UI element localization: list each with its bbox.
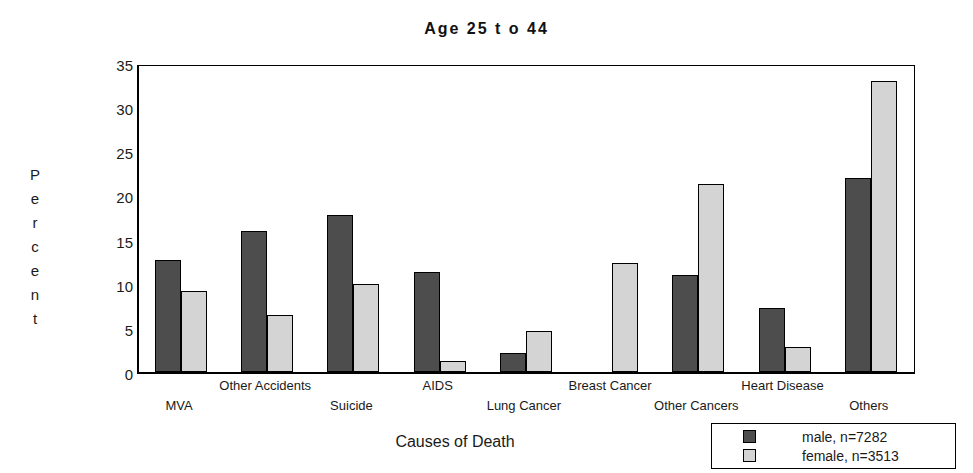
bar-group	[829, 66, 915, 372]
bar-male	[672, 275, 698, 372]
bar-male	[241, 231, 267, 372]
bar-male	[500, 353, 526, 372]
x-label-heart-disease: Heart Disease	[741, 378, 823, 393]
y-tick-label-25: 25	[99, 145, 133, 162]
x-label-other-cancers: Other Cancers	[654, 398, 739, 413]
y-tick-label-5: 5	[99, 321, 133, 338]
x-axis-category-labels: MVAOther AccidentsSuicideAIDSLung Cancer…	[137, 374, 915, 420]
bar-male	[327, 215, 353, 372]
legend-swatch-male-icon	[743, 430, 756, 443]
x-axis-title: Causes of Death	[330, 433, 580, 451]
y-axis-ticks: 05101520253035	[93, 65, 133, 374]
legend-swatch-female-icon	[743, 449, 756, 462]
legend-label-male: male, n=7282	[802, 429, 887, 445]
bar-group	[743, 66, 829, 372]
chart-title: Age 25 t o 44	[0, 20, 973, 38]
bar-group	[139, 66, 225, 372]
y-tick-label-35: 35	[99, 57, 133, 74]
plot-area	[137, 65, 915, 374]
x-label-aids: AIDS	[422, 378, 452, 393]
y-axis-title-letter-5: n	[22, 283, 48, 307]
y-axis-title-letter-1: e	[22, 187, 48, 211]
x-label-breast-cancer: Breast Cancer	[569, 378, 652, 393]
bar-group	[398, 66, 484, 372]
x-label-suicide: Suicide	[330, 398, 373, 413]
x-label-other-accidents: Other Accidents	[219, 378, 311, 393]
y-axis-title-letter-2: r	[22, 211, 48, 235]
y-axis-title: Percent	[22, 163, 48, 331]
bar-female	[785, 347, 811, 372]
bar-female	[267, 315, 293, 372]
bar-male	[155, 260, 181, 372]
bar-female	[612, 263, 638, 372]
y-axis-title-letter-6: t	[22, 307, 48, 331]
bar-female	[526, 331, 552, 372]
y-axis-title-letter-3: c	[22, 235, 48, 259]
bar-female	[440, 361, 466, 372]
legend-item-female: female, n=3513	[712, 446, 955, 465]
y-tick-label-30: 30	[99, 101, 133, 118]
y-tick-label-10: 10	[99, 277, 133, 294]
bar-group	[656, 66, 742, 372]
bars-container	[139, 66, 914, 372]
x-label-others: Others	[849, 398, 888, 413]
bar-group	[311, 66, 397, 372]
y-tick-label-0: 0	[99, 366, 133, 383]
bar-group	[484, 66, 570, 372]
bar-group	[570, 66, 656, 372]
y-tick-label-15: 15	[99, 233, 133, 250]
y-tick-label-20: 20	[99, 189, 133, 206]
bar-female	[181, 291, 207, 372]
legend: male, n=7282 female, n=3513	[711, 423, 956, 469]
bar-male	[845, 178, 871, 372]
bar-female	[353, 284, 379, 372]
y-axis-title-letter-4: e	[22, 259, 48, 283]
bar-female	[871, 81, 897, 372]
bar-male	[414, 272, 440, 372]
legend-label-female: female, n=3513	[802, 448, 899, 464]
x-label-mva: MVA	[165, 398, 192, 413]
x-label-lung-cancer: Lung Cancer	[487, 398, 561, 413]
bar-male	[759, 308, 785, 372]
bar-female	[698, 184, 724, 372]
y-axis-title-letter-0: P	[22, 163, 48, 187]
bar-group	[225, 66, 311, 372]
legend-item-male: male, n=7282	[712, 427, 955, 446]
